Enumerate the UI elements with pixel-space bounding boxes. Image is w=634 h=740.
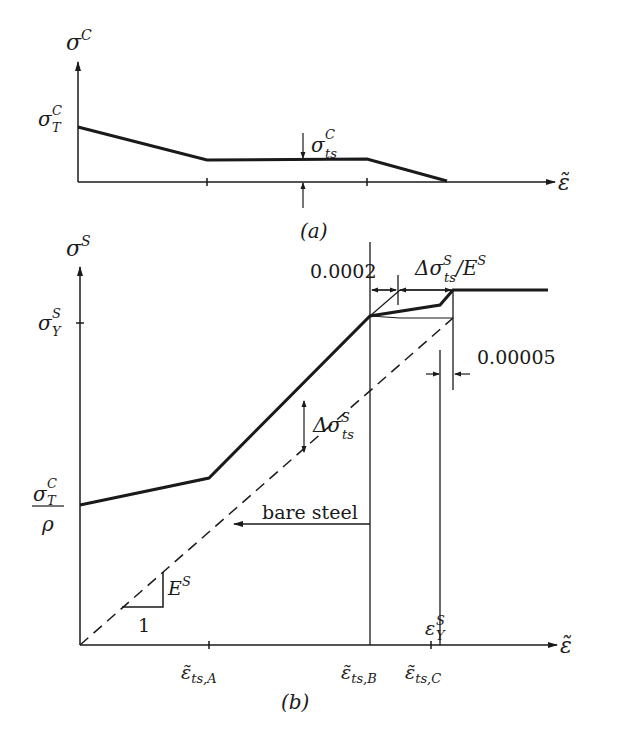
panel-a-y-axis-label: σC: [66, 27, 92, 55]
stress-strain-diagram: σC ε̃ σCT σCts (a): [0, 0, 634, 740]
slope-es-label: ES: [167, 574, 191, 599]
panel-b-x-axis-label: ε̃: [560, 633, 572, 658]
panel-a-y-tick-sigma-t: σCT: [38, 103, 62, 135]
sigma-ts-c-label: σCts: [311, 127, 337, 161]
svg-text:ρ: ρ: [41, 512, 54, 536]
panel-a-caption: (a): [300, 219, 328, 243]
panel-a: σC ε̃ σCT σCts (a): [38, 27, 570, 243]
svg-text:σCT: σCT: [33, 476, 57, 508]
y-tick-sigma-t-over-rho: σCT ρ: [32, 476, 64, 536]
dim-00005-label: 0.00005: [477, 346, 556, 368]
x-tick-label-a: ε̃ts,A: [181, 661, 217, 686]
delta-sigma-label: ΔσSts: [312, 410, 354, 442]
panel-b: σS ε̃ σSY σCT ρ ε̃ts,A ε̃ts,B ε̃ts,C εSY…: [32, 233, 572, 714]
y-tick-sigma-y: σSY: [38, 306, 62, 339]
slope-triangle: [122, 572, 163, 607]
panel-a-concrete-curve: [78, 127, 447, 181]
x-tick-label-c: ε̃ts,C: [405, 661, 441, 686]
panel-b-y-axis-label: σS: [66, 233, 91, 261]
offset-line: [370, 316, 453, 318]
dim-delta-label: ΔσSts/ES: [414, 253, 486, 285]
bare-steel-label: bare steel: [262, 501, 358, 523]
panel-b-caption: (b): [281, 690, 309, 714]
yield-strain-label: εSY: [425, 613, 446, 643]
panel-a-x-axis-label: ε̃: [558, 170, 570, 195]
dim-0002-label: 0.0002: [310, 260, 376, 282]
slope-run-label: 1: [138, 614, 150, 636]
tension-stiffening-curve: [80, 290, 548, 505]
bare-steel-line: [80, 318, 453, 645]
x-tick-label-b: ε̃ts,B: [341, 661, 377, 686]
